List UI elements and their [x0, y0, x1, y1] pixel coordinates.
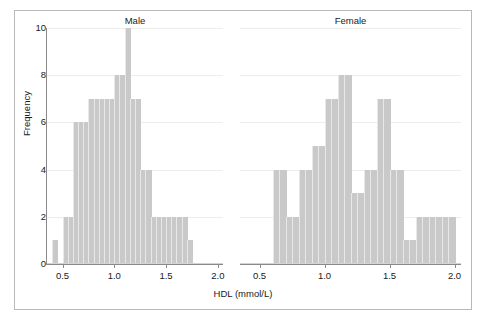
- y-tick-label: 8: [20, 70, 46, 80]
- plot-area: [240, 28, 461, 264]
- gridline: [47, 28, 223, 29]
- x-axis-line: [47, 264, 223, 265]
- x-tick-mark: [114, 264, 115, 268]
- x-tick-mark: [455, 264, 456, 268]
- x-tick-mark: [218, 264, 219, 268]
- y-tick-label: 6: [20, 118, 46, 128]
- x-tick-label: 0.5: [48, 270, 78, 281]
- male-panel: Male: [47, 14, 223, 264]
- x-tick-label: 0.5: [245, 270, 275, 281]
- x-tick-mark: [166, 264, 167, 268]
- x-axis-title: HDL (mmol/L): [0, 288, 486, 299]
- x-tick-label: 1.0: [99, 270, 129, 281]
- y-tick-label: 10: [20, 23, 46, 33]
- histogram-bar: [52, 240, 58, 264]
- x-axis: 0.51.01.52.0: [240, 264, 461, 286]
- x-axis: 0.51.01.52.0: [47, 264, 223, 286]
- panel-strip-label: Female: [240, 14, 461, 28]
- x-tick-mark: [260, 264, 261, 268]
- histogram-figure: Frequency 0246810 Male0.51.01.52.0Female…: [0, 0, 486, 323]
- x-tick-mark: [325, 264, 326, 268]
- x-tick-label: 1.5: [375, 270, 405, 281]
- plot-area: [47, 28, 223, 264]
- gridline: [240, 28, 461, 29]
- x-axis-line: [240, 264, 461, 265]
- x-tick-mark: [63, 264, 64, 268]
- x-tick-label: 2.0: [440, 270, 470, 281]
- y-axis: 0246810: [10, 0, 46, 323]
- histogram-bar: [187, 240, 193, 264]
- female-panel: Female: [240, 14, 461, 264]
- gridline: [47, 75, 223, 76]
- panel-strip-label: Male: [47, 14, 223, 28]
- y-tick-label: 4: [20, 165, 46, 175]
- x-tick-label: 2.0: [203, 270, 233, 281]
- x-tick-label: 1.0: [310, 270, 340, 281]
- y-tick-label: 0: [20, 259, 46, 269]
- histogram-bar: [448, 217, 456, 264]
- x-tick-label: 1.5: [151, 270, 181, 281]
- x-tick-mark: [390, 264, 391, 268]
- y-tick-label: 2: [20, 212, 46, 222]
